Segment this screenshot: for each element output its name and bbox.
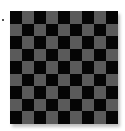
dark-square bbox=[58, 11, 70, 24]
light-square bbox=[22, 11, 34, 24]
dark-square bbox=[106, 61, 118, 74]
light-square bbox=[58, 99, 70, 112]
dark-square bbox=[70, 24, 82, 37]
light-square bbox=[10, 24, 22, 37]
light-square bbox=[34, 49, 46, 62]
light-square bbox=[106, 49, 118, 62]
dark-square bbox=[22, 74, 34, 87]
dark-square bbox=[22, 49, 34, 62]
light-square bbox=[106, 74, 118, 87]
dark-square bbox=[10, 11, 22, 24]
light-square bbox=[34, 24, 46, 37]
light-square bbox=[94, 61, 106, 74]
light-square bbox=[58, 49, 70, 62]
dark-square bbox=[22, 99, 34, 112]
light-square bbox=[22, 61, 34, 74]
dark-square bbox=[58, 36, 70, 49]
light-square bbox=[46, 111, 58, 124]
dark-square bbox=[82, 61, 94, 74]
dark-square bbox=[34, 11, 46, 24]
dark-square bbox=[46, 74, 58, 87]
light-square bbox=[82, 24, 94, 37]
dark-square bbox=[58, 86, 70, 99]
light-square bbox=[10, 99, 22, 112]
light-square bbox=[46, 11, 58, 24]
light-square bbox=[34, 99, 46, 112]
dark-square bbox=[106, 36, 118, 49]
dark-square bbox=[94, 74, 106, 87]
dark-square bbox=[82, 11, 94, 24]
dark-square bbox=[58, 111, 70, 124]
light-square bbox=[82, 74, 94, 87]
light-square bbox=[58, 24, 70, 37]
dark-square bbox=[10, 111, 22, 124]
light-square bbox=[82, 49, 94, 62]
light-square bbox=[70, 61, 82, 74]
light-square bbox=[46, 61, 58, 74]
dark-square bbox=[94, 99, 106, 112]
light-square bbox=[10, 74, 22, 87]
dark-square bbox=[10, 86, 22, 99]
light-square bbox=[94, 111, 106, 124]
light-square bbox=[94, 36, 106, 49]
dark-square bbox=[34, 61, 46, 74]
dark-square bbox=[34, 36, 46, 49]
light-square bbox=[94, 11, 106, 24]
dark-square bbox=[106, 11, 118, 24]
light-square bbox=[70, 111, 82, 124]
dark-square bbox=[82, 111, 94, 124]
light-square bbox=[70, 11, 82, 24]
dark-square bbox=[70, 74, 82, 87]
light-square bbox=[46, 86, 58, 99]
dark-square bbox=[82, 86, 94, 99]
dark-square bbox=[106, 86, 118, 99]
light-square bbox=[94, 86, 106, 99]
light-square bbox=[22, 36, 34, 49]
light-square bbox=[70, 86, 82, 99]
dark-square bbox=[10, 61, 22, 74]
light-square bbox=[58, 74, 70, 87]
dark-square bbox=[82, 36, 94, 49]
dark-square bbox=[94, 49, 106, 62]
light-square bbox=[34, 74, 46, 87]
light-square bbox=[70, 36, 82, 49]
dark-square bbox=[34, 86, 46, 99]
dark-square bbox=[70, 99, 82, 112]
light-square bbox=[46, 36, 58, 49]
dark-square bbox=[46, 49, 58, 62]
dark-square bbox=[46, 99, 58, 112]
light-square bbox=[106, 99, 118, 112]
dark-square bbox=[10, 36, 22, 49]
marker-dot bbox=[2, 19, 4, 21]
dark-square bbox=[34, 111, 46, 124]
dark-square bbox=[22, 24, 34, 37]
light-square bbox=[106, 24, 118, 37]
dark-square bbox=[58, 61, 70, 74]
dark-square bbox=[70, 49, 82, 62]
light-square bbox=[22, 111, 34, 124]
dark-square bbox=[106, 111, 118, 124]
dark-square bbox=[46, 24, 58, 37]
light-square bbox=[22, 86, 34, 99]
checkerboard bbox=[10, 11, 118, 124]
dark-square bbox=[94, 24, 106, 37]
light-square bbox=[10, 49, 22, 62]
light-square bbox=[82, 99, 94, 112]
